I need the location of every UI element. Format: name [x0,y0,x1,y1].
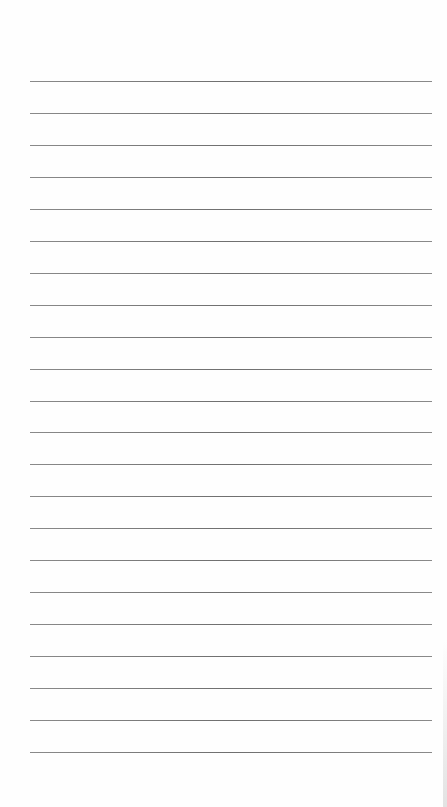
ruled-line [30,337,432,338]
ruled-line [30,560,432,561]
ruled-line [30,720,432,721]
ruled-line [30,209,432,210]
ruled-line [30,145,432,146]
ruled-line [30,464,432,465]
ruled-line [30,113,432,114]
ruled-line [30,752,432,753]
ruled-line [30,688,432,689]
ruled-line [30,369,432,370]
ruled-line [30,496,432,497]
ruled-line [30,241,432,242]
ruled-line [30,273,432,274]
ruled-line [30,305,432,306]
lined-paper-page [0,0,447,807]
ruled-line [30,401,432,402]
ruled-line [30,592,432,593]
ruled-line [30,177,432,178]
ruled-line [30,528,432,529]
ruled-line [30,432,432,433]
ruled-line [30,81,432,82]
ruled-line [30,656,432,657]
ruled-line [30,624,432,625]
page-edge-shadow [443,640,447,807]
